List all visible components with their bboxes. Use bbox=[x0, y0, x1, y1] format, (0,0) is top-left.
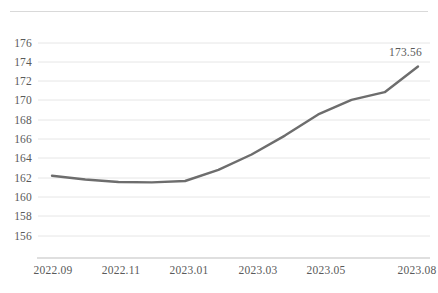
y-tick-162: 162 bbox=[8, 173, 32, 185]
x-tick-2023-03: 2023.03 bbox=[227, 265, 289, 277]
y-tick-172: 172 bbox=[8, 76, 32, 88]
y-tick-158: 158 bbox=[8, 211, 32, 223]
x-tick-2023-01: 2023.01 bbox=[158, 265, 220, 277]
chart-plot-area bbox=[0, 0, 438, 293]
x-tick-2022-11: 2022.11 bbox=[90, 265, 152, 277]
gridlines bbox=[38, 43, 430, 236]
y-tick-166: 166 bbox=[8, 134, 32, 146]
y-tick-156: 156 bbox=[8, 231, 32, 243]
x-tick-2023-05: 2023.05 bbox=[295, 265, 357, 277]
y-tick-174: 174 bbox=[8, 57, 32, 69]
y-tick-168: 168 bbox=[8, 115, 32, 127]
x-tick-2022-09: 2022.09 bbox=[22, 265, 84, 277]
y-tick-176: 176 bbox=[8, 38, 32, 50]
y-tick-170: 170 bbox=[8, 95, 32, 107]
endpoint-value-label: 173.56 bbox=[389, 47, 422, 59]
x-tick-2023-08: 2023.08 bbox=[386, 265, 438, 277]
y-tick-164: 164 bbox=[8, 153, 32, 165]
y-tick-160: 160 bbox=[8, 192, 32, 204]
line-chart: 176 174 172 170 168 166 164 162 160 158 … bbox=[0, 0, 438, 293]
data-line-series-1 bbox=[52, 67, 418, 183]
